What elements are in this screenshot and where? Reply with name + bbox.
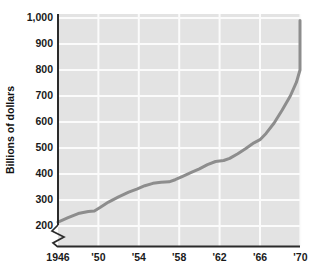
y-tick-label-500: 500 [35, 141, 53, 153]
line-chart: 2003004005006007008009001,000 1946'50'54… [0, 0, 312, 276]
y-axis-tick-labels: 2003004005006007008009001,000 [27, 11, 53, 231]
x-axis-tick-labels: 1946'50'54'58'62'66'70 [46, 251, 307, 263]
y-tick-label-400: 400 [35, 167, 53, 179]
y-axis-title: Billions of dollars [4, 86, 16, 174]
x-tick-label-1962: '62 [213, 251, 227, 263]
y-tick-label-1000: 1,000 [27, 11, 53, 23]
x-tick-label-1966: '66 [253, 251, 267, 263]
x-tick-label-1970: '70 [293, 251, 307, 263]
y-tick-label-900: 900 [35, 37, 53, 49]
x-tick-label-1954: '54 [132, 251, 146, 263]
x-tick-label-1946: 1946 [46, 251, 70, 263]
y-tick-label-800: 800 [35, 63, 53, 75]
y-tick-label-200: 200 [35, 219, 53, 231]
y-tick-label-600: 600 [35, 115, 53, 127]
y-tick-label-300: 300 [35, 193, 53, 205]
y-tick-label-700: 700 [35, 89, 53, 101]
x-tick-label-1950: '50 [91, 251, 105, 263]
chart-container: 2003004005006007008009001,000 1946'50'54… [0, 0, 312, 276]
x-tick-label-1958: '58 [172, 251, 186, 263]
